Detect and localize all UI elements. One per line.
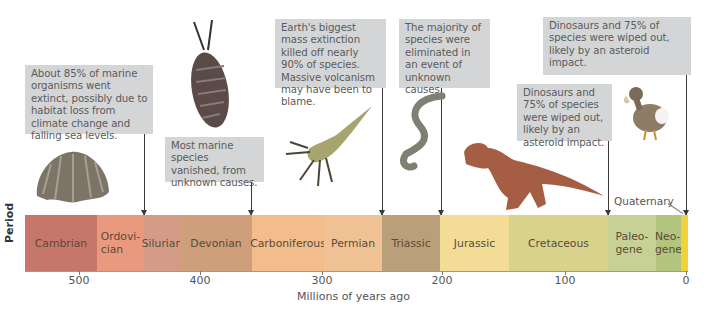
period-permian: Permian: [324, 215, 382, 271]
period-band-row: Cambrian Ordovi- cian Silurian Devonian …: [25, 215, 688, 271]
brachiopod-illustration: [33, 146, 113, 206]
tick-label-200: 200: [432, 274, 453, 287]
time-axis-line: [25, 271, 688, 272]
callout-end-permian: Earth's biggest mass extinction killed o…: [275, 19, 386, 88]
arrow-end-cretaceous: [608, 141, 609, 215]
tick-label-500: 500: [69, 274, 90, 287]
period-devonian: Devonian: [180, 215, 252, 271]
arrow-late-devonian: [251, 182, 252, 215]
tick-label-100: 100: [555, 274, 576, 287]
period-ordovician: Ordovi- cian: [97, 215, 144, 271]
callout-late-devonian: Most marine species vanished, from unkno…: [165, 137, 264, 182]
tyrannosaurus-illustration: [458, 134, 608, 212]
quaternary-leader-line: [668, 203, 683, 214]
callout-today: Dinosaurs and 75% of species were wiped …: [543, 17, 691, 75]
period-cretaceous: Cretaceous: [509, 215, 608, 271]
period-neogene: Neo- gene: [656, 215, 681, 271]
trilobite-illustration: [186, 20, 236, 132]
period-jurassic: Jurassic: [440, 215, 509, 271]
x-axis-title: Millions of years ago: [297, 290, 410, 303]
tick-label-400: 400: [190, 274, 211, 287]
callout-end-cretaceous: Dinosaurs and 75% of species were wiped …: [517, 84, 612, 141]
period-paleogene: Paleo- gene: [608, 215, 656, 271]
period-quaternary: [681, 215, 688, 271]
arrow-end-permian: [382, 88, 383, 215]
conodont-illustration: [398, 92, 448, 172]
tick-label-300: 300: [312, 274, 333, 287]
quaternary-label: Quaternary: [614, 195, 674, 207]
dodo-illustration: [622, 84, 672, 144]
arrow-end-ordovician: [144, 134, 145, 215]
eurypterid-illustration: [280, 102, 380, 192]
period-axis-label: Period: [3, 203, 16, 243]
period-cambrian: Cambrian: [25, 215, 97, 271]
arrow-today: [686, 75, 687, 215]
period-triassic: Triassic: [382, 215, 440, 271]
callout-end-ordovician: About 85% of marine organisms went extin…: [25, 65, 153, 134]
period-silurian: Silurian: [144, 215, 180, 271]
tick-label-0: 0: [683, 274, 690, 287]
callout-end-triassic: The majority of species were eliminated …: [399, 19, 490, 88]
period-carboniferous: Carboniferous: [252, 215, 324, 271]
